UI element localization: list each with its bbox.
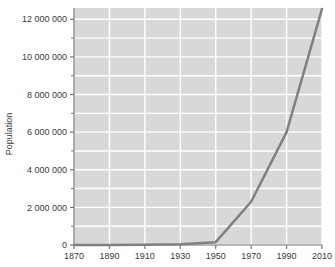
y-tick-label: 12 000 000	[22, 14, 67, 24]
x-tick-label: 2010	[312, 251, 332, 261]
plot-area-background	[74, 8, 322, 245]
y-tick-label: 10 000 000	[22, 52, 67, 62]
x-tick-label: 1890	[99, 251, 119, 261]
chart-canvas: 02 000 0004 000 0006 000 0008 000 00010 …	[0, 0, 335, 267]
y-tick-label: 0	[62, 240, 67, 250]
x-tick-label: 1990	[277, 251, 297, 261]
y-axis-title: Population	[4, 113, 14, 156]
y-tick-label: 6 000 000	[27, 127, 67, 137]
y-tick-label: 2 000 000	[27, 203, 67, 213]
y-tick-label: 8 000 000	[27, 90, 67, 100]
x-tick-label: 1950	[206, 251, 226, 261]
population-line-chart: 02 000 0004 000 0006 000 0008 000 00010 …	[0, 0, 335, 267]
x-tick-label: 1970	[241, 251, 261, 261]
x-tick-label: 1910	[135, 251, 155, 261]
x-tick-label: 1930	[170, 251, 190, 261]
x-tick-label: 1870	[64, 251, 84, 261]
y-tick-label: 4 000 000	[27, 165, 67, 175]
